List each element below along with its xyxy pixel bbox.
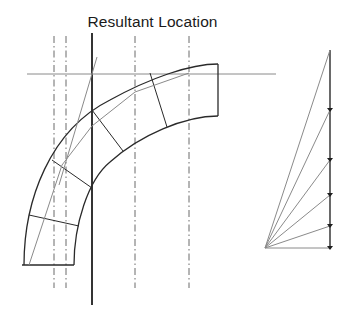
force-polygon xyxy=(265,50,333,250)
diagram-canvas xyxy=(0,0,339,313)
